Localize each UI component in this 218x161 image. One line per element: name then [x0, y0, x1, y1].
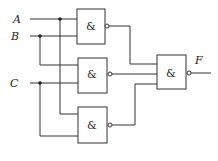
wire-a-branch — [60, 19, 78, 114]
junction-c — [38, 81, 42, 85]
inversion-bubble-output — [187, 71, 191, 75]
junction-b — [38, 34, 42, 38]
gate-output-symbol: & — [166, 67, 176, 80]
gate-3-symbol: & — [87, 119, 97, 132]
wire-b-branch — [40, 36, 78, 65]
wire-c-branch — [40, 83, 78, 136]
inversion-bubble-3 — [108, 123, 112, 127]
input-label-b: B — [10, 30, 19, 43]
output-label-f: F — [194, 54, 203, 67]
gate-2-symbol: & — [87, 68, 97, 81]
wire-g3-out — [112, 84, 157, 125]
wire-g1-out — [109, 26, 157, 64]
junction-a — [58, 17, 62, 21]
gate-1-symbol: & — [86, 20, 96, 33]
logic-circuit-diagram: & & & & A B C F — [0, 0, 218, 161]
inversion-bubble-2 — [108, 72, 112, 76]
input-label-a: A — [12, 13, 21, 26]
input-label-c: C — [10, 77, 19, 90]
inversion-bubble-1 — [105, 24, 109, 28]
